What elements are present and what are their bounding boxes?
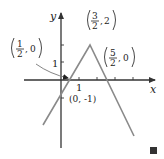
function-graph: y x 1 1 3 2 , 2 1 2 , 0 5 2 , 0 (0, -1) bbox=[0, 0, 164, 159]
end-marker-square bbox=[150, 147, 157, 154]
y-intercept-label: (0, -1) bbox=[69, 94, 96, 104]
right-root-label: 5 2 , 0 bbox=[105, 47, 135, 68]
svg-text:5: 5 bbox=[110, 48, 116, 58]
y-tick-label-1: 1 bbox=[52, 58, 58, 69]
svg-text:2: 2 bbox=[17, 49, 23, 59]
peak-point-label: 3 2 , 2 bbox=[88, 10, 116, 31]
svg-text:,: , bbox=[100, 16, 103, 26]
svg-text:,: , bbox=[25, 44, 28, 54]
svg-text:0: 0 bbox=[30, 44, 36, 54]
x-axis-label: x bbox=[150, 83, 157, 96]
svg-text:2: 2 bbox=[92, 21, 98, 31]
x-tick-label-1: 1 bbox=[76, 82, 82, 93]
svg-text:,: , bbox=[118, 53, 121, 63]
svg-text:0: 0 bbox=[123, 53, 129, 63]
svg-text:2: 2 bbox=[110, 58, 116, 68]
svg-text:3: 3 bbox=[92, 11, 98, 21]
svg-text:2: 2 bbox=[104, 16, 110, 26]
svg-text:1: 1 bbox=[17, 39, 23, 49]
y-axis-label: y bbox=[49, 10, 57, 23]
left-root-label: 1 2 , 0 bbox=[12, 38, 42, 59]
